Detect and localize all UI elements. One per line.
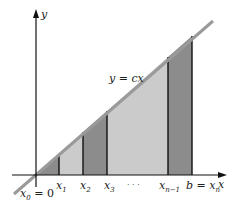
y-axis-label: y bbox=[40, 8, 48, 21]
riemann-diagram: y x y = cx x0 = 0 x1 x2 x3 · · · xn−1 b … bbox=[0, 0, 240, 209]
ellipsis: · · · bbox=[127, 180, 140, 189]
curve-label: y = cx bbox=[108, 72, 145, 85]
tick-x3: x3 bbox=[104, 179, 115, 194]
tick-x2: x2 bbox=[80, 179, 91, 194]
tick-x1: x1 bbox=[56, 179, 67, 194]
tick-b-xn: b = xn bbox=[186, 179, 220, 194]
y-axis-arrow-icon bbox=[33, 9, 39, 18]
strip-3 bbox=[83, 111, 107, 175]
tick-x0: x0 = 0 bbox=[20, 187, 54, 202]
tick-xn-1: xn−1 bbox=[159, 179, 180, 194]
